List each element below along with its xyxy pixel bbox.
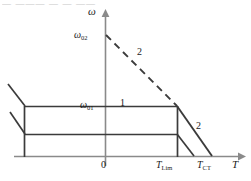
t-ct-base: T <box>197 159 203 170</box>
y-axis <box>102 9 110 166</box>
omega02-tick-label: ω02 <box>74 30 88 40</box>
speed-torque-characteristic-diagram <box>0 0 251 181</box>
t-lim-tick-label: TLim <box>156 160 172 170</box>
curve-label-2-lower: 2 <box>196 121 201 131</box>
region-1-outline <box>24 106 178 157</box>
figure-root: — ——— — — —— ω ω02 ω01 <box>0 0 251 181</box>
t-ct-tick-label: TCT <box>197 160 211 170</box>
y-axis-label-omega: ω <box>88 6 96 17</box>
characteristic-2-solid-segment <box>177 106 212 156</box>
omega02-subscript: 02 <box>81 34 88 41</box>
x-axis-label-T: T <box>232 159 238 170</box>
t-ct-subscript: CT <box>203 164 211 171</box>
omega01-tick-label: ω01 <box>80 100 94 110</box>
omega02-base: ω <box>74 29 81 40</box>
left-branch-upper-line <box>8 84 25 106</box>
t-lim-subscript: Lim <box>162 164 173 171</box>
curve-label-2-upper: 2 <box>137 47 142 57</box>
omega01-subscript: 01 <box>87 104 94 111</box>
characteristic-inner-falling-segment <box>177 134 194 156</box>
t-lim-base: T <box>156 159 162 170</box>
left-branch-lower-line <box>10 112 25 134</box>
omega01-base: ω <box>80 99 87 110</box>
origin-label: 0 <box>101 160 106 170</box>
y-axis-arrowhead <box>102 9 110 17</box>
x-axis-arrowhead <box>238 153 246 161</box>
curve-label-1: 1 <box>120 98 125 108</box>
